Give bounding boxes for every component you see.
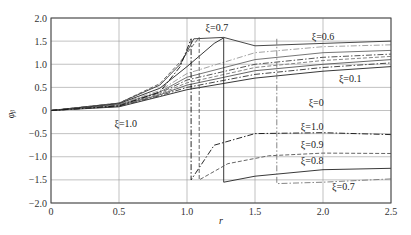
series-annotation: ξ=0.7 xyxy=(206,22,229,34)
series-line xyxy=(51,37,391,180)
y-tick: −2.0 xyxy=(29,198,47,209)
chart-canvas: 00.51.01.52.02.5 2.01.51.00.50−0.5−1.0−1… xyxy=(0,0,411,235)
series-annotation: ξ=1.0 xyxy=(114,118,137,130)
series-line xyxy=(51,60,391,111)
y-tick: −1.5 xyxy=(29,174,47,185)
x-tick: 1.5 xyxy=(249,206,262,217)
series-annotation: ξ=0.6 xyxy=(312,31,335,43)
series-annotation: ξ=1.0 xyxy=(301,121,324,133)
series-annotation: ξ=0.7 xyxy=(332,181,355,193)
x-tick: 0 xyxy=(49,206,54,217)
series-annotation: ξ=0.9 xyxy=(301,139,324,151)
series-annotation: ξ=0 xyxy=(309,97,324,109)
y-axis-label: φᵦ xyxy=(5,110,16,119)
y-tick: 2.0 xyxy=(35,13,48,24)
series-annotation: ξ=0.8 xyxy=(301,155,324,167)
y-tick: −1.0 xyxy=(29,151,47,162)
series-annotations: ξ=0.7ξ=0.6ξ=0.1ξ=0ξ=1.0ξ=1.0ξ=0.9ξ=0.8ξ=… xyxy=(114,22,361,193)
x-tick: 0.5 xyxy=(113,206,126,217)
y-tick: 1.5 xyxy=(35,36,48,47)
y-tick: 1.0 xyxy=(35,59,48,70)
x-tick: 1.0 xyxy=(181,206,194,217)
series-annotation: ξ=0.1 xyxy=(339,73,362,85)
y-tick-labels: 2.01.51.00.50−0.5−1.0−1.5−2.0 xyxy=(29,13,47,209)
y-tick: −0.5 xyxy=(29,128,47,139)
y-tick: 0 xyxy=(42,105,47,116)
x-axis-label: r xyxy=(219,215,223,226)
x-tick: 2.5 xyxy=(385,206,398,217)
x-tick: 2.0 xyxy=(317,206,330,217)
grid-lines xyxy=(51,18,391,203)
y-tick: 0.5 xyxy=(35,82,48,93)
series-line xyxy=(51,39,391,180)
